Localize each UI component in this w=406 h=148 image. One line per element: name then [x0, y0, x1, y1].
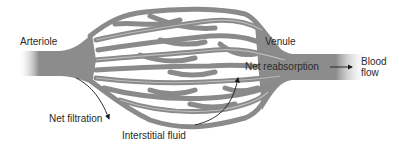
- blood-flow-label-line1: Blood: [361, 57, 387, 67]
- blood-flow-label-line2: flow: [361, 68, 379, 78]
- capillary-bed-diagram: Arteriole Venule Net reabsorption Blood …: [0, 0, 406, 148]
- venule-label: Venule: [265, 37, 296, 47]
- net-reabsorption-arrow: [195, 78, 238, 125]
- arteriole-label: Arteriole: [20, 37, 57, 47]
- net-reabsorption-label: Net reabsorption: [245, 62, 319, 72]
- interstitial-fluid-label: Interstitial fluid: [122, 131, 186, 141]
- capillary-network-graphic: [0, 0, 406, 148]
- net-filtration-label: Net filtration: [49, 114, 102, 124]
